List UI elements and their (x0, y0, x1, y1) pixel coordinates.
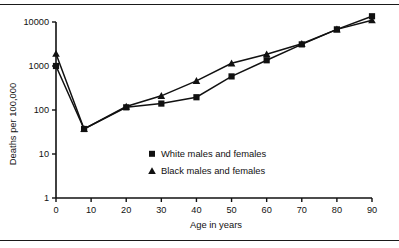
x-tick-label: 90 (367, 205, 377, 215)
x-tick-label: 30 (156, 205, 166, 215)
data-point-square (193, 94, 199, 100)
chart-legend: White males and femalesBlack males and f… (148, 148, 266, 176)
y-tick-label: 1 (44, 193, 49, 203)
series-layer (52, 13, 376, 132)
y-tick-label: 10 (39, 149, 49, 159)
y-tick-label: 100 (34, 105, 49, 115)
legend-label: Black males and females (161, 165, 266, 176)
chart-plot-area: 110100100010000 0102030405060708090 Deat… (0, 6, 399, 238)
legend-marker-square (149, 151, 155, 157)
x-tick-label: 40 (191, 205, 201, 215)
legend-label: White males and females (161, 148, 267, 159)
data-point-square (53, 63, 59, 69)
bottom-rule (0, 240, 399, 241)
x-tick-label: 50 (226, 205, 236, 215)
x-axis-title: Age in years (190, 219, 242, 230)
figure-page: 110100100010000 0102030405060708090 Deat… (0, 0, 399, 248)
y-axis-tick-labels: 110100100010000 (23, 17, 49, 203)
data-point-square (228, 73, 234, 79)
data-point-triangle (193, 77, 201, 84)
x-tick-label: 0 (53, 205, 58, 215)
data-point-square (158, 100, 164, 106)
x-tick-label: 80 (332, 205, 342, 215)
x-tick-label: 70 (297, 205, 307, 215)
x-axis-tick-labels: 0102030405060708090 (53, 205, 377, 215)
data-point-triangle (52, 50, 60, 57)
y-tick-label: 1000 (29, 61, 49, 71)
y-axis-title: Deaths per 100,000 (7, 83, 18, 165)
top-rule (0, 4, 399, 5)
series-black (52, 16, 376, 132)
mortality-line-chart: 110100100010000 0102030405060708090 Deat… (0, 6, 399, 238)
x-tick-label: 10 (86, 205, 96, 215)
data-point-square (264, 57, 270, 63)
x-tick-label: 20 (121, 205, 131, 215)
series-line (56, 20, 372, 129)
x-tick-label: 60 (262, 205, 272, 215)
legend-marker-triangle (148, 167, 156, 174)
y-tick-label: 10000 (23, 17, 49, 27)
